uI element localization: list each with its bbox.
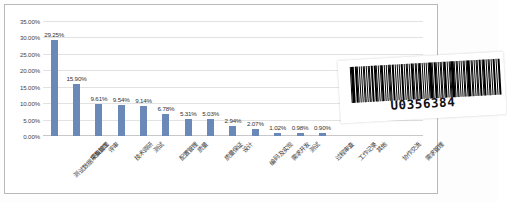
bar-value-label: 1.02%	[269, 124, 286, 131]
bar-value-label: 9.54%	[113, 96, 130, 103]
x-axis-label: 测试	[151, 140, 166, 155]
x-axis-label: 项目管理	[87, 140, 110, 163]
bar[interactable]	[51, 40, 58, 136]
x-axis-label: 工作记录	[355, 140, 378, 163]
bar-value-label: 0.90%	[314, 124, 331, 131]
bar[interactable]	[140, 106, 147, 136]
bar-value-label: 29.25%	[44, 31, 64, 38]
y-axis-tick: 5.00%	[23, 116, 40, 123]
bar-value-label: 5.31%	[180, 110, 197, 117]
x-axis-label: 协作交流	[400, 140, 423, 163]
bar[interactable]	[185, 119, 192, 136]
bar-column[interactable]: 1.02%	[267, 21, 289, 136]
bar-value-label: 2.07%	[247, 120, 264, 127]
bar-value-label: 6.78%	[158, 105, 175, 112]
barcode-sticker: U0356384	[337, 51, 506, 123]
bar-column[interactable]: 29.25%	[43, 21, 65, 136]
x-axis-labels: 测试数据采集加工项目管理评审技术调研测试配置管理质量质量保证设计编码及实现需求开…	[43, 138, 423, 194]
bar-value-label: 15.90%	[66, 75, 86, 82]
y-axis-tick: 25.00%	[20, 50, 40, 57]
y-axis-tick: 10.00%	[20, 100, 40, 107]
x-axis-label: 质量	[196, 140, 211, 155]
bar[interactable]	[73, 84, 80, 136]
x-axis-label: 配置管理	[177, 140, 200, 163]
bar-column[interactable]: 0.98%	[289, 21, 311, 136]
x-axis-label: 质量保证	[221, 140, 244, 163]
bar-value-label: 9.61%	[90, 95, 107, 102]
bar[interactable]	[207, 119, 214, 136]
bar-column[interactable]: 9.14%	[132, 21, 154, 136]
x-axis-label: 评审	[106, 140, 121, 155]
bar[interactable]	[95, 104, 102, 136]
y-axis-tick: 35.00%	[20, 18, 40, 25]
y-axis-tick: 30.00%	[20, 34, 40, 41]
bar[interactable]	[252, 129, 259, 136]
x-axis-label: 技术调研	[132, 140, 155, 163]
x-axis-label: 过程审查	[333, 140, 356, 163]
bar-value-label: 9.14%	[135, 97, 152, 104]
x-axis-label: 其他	[374, 140, 389, 155]
y-axis-tick: 0.00%	[23, 133, 40, 140]
x-axis-label: 设计	[240, 140, 255, 155]
bar-column[interactable]: 2.94%	[222, 21, 244, 136]
bar[interactable]	[319, 133, 326, 136]
bar[interactable]	[274, 133, 281, 136]
y-axis-tick: 15.00%	[20, 83, 40, 90]
bar-value-label: 5.03%	[202, 110, 219, 117]
bar-column[interactable]: 15.90%	[65, 21, 87, 136]
bar[interactable]	[229, 126, 236, 136]
bar-column[interactable]: 9.61%	[88, 21, 110, 136]
x-axis-label: 测试	[307, 140, 322, 155]
x-axis-label: 需求管理	[422, 140, 445, 163]
bar-column[interactable]: 2.07%	[244, 21, 266, 136]
bar[interactable]	[297, 133, 304, 136]
bar[interactable]	[118, 105, 125, 136]
bar[interactable]	[162, 114, 169, 136]
bar-column[interactable]: 6.78%	[155, 21, 177, 136]
bar-value-label: 2.94%	[225, 117, 242, 124]
bar-column[interactable]: 5.03%	[199, 21, 221, 136]
y-axis: 0.00%5.00%10.00%15.00%20.00%25.00%30.00%…	[5, 21, 43, 136]
y-axis-tick: 20.00%	[20, 67, 40, 74]
bar-column[interactable]: 5.31%	[177, 21, 199, 136]
bar-column[interactable]: 9.54%	[110, 21, 132, 136]
bar-value-label: 0.98%	[292, 124, 309, 131]
bar-column[interactable]: 0.90%	[311, 21, 333, 136]
